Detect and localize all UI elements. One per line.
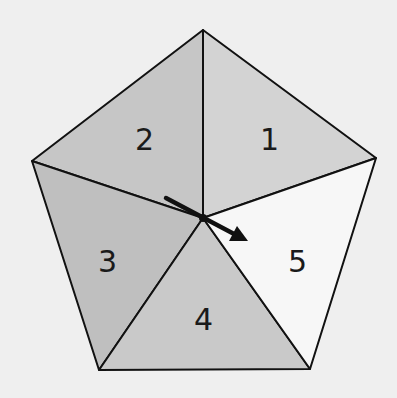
region-1-label: 1 bbox=[260, 122, 279, 157]
region-3-label: 3 bbox=[98, 244, 117, 279]
region-2-label: 2 bbox=[135, 122, 154, 157]
region-4-label: 4 bbox=[194, 302, 213, 337]
region-5-label: 5 bbox=[288, 244, 307, 279]
diagram-canvas: 1 2 3 4 5 bbox=[0, 0, 397, 398]
pentagon-diagram: 1 2 3 4 5 bbox=[0, 0, 397, 398]
